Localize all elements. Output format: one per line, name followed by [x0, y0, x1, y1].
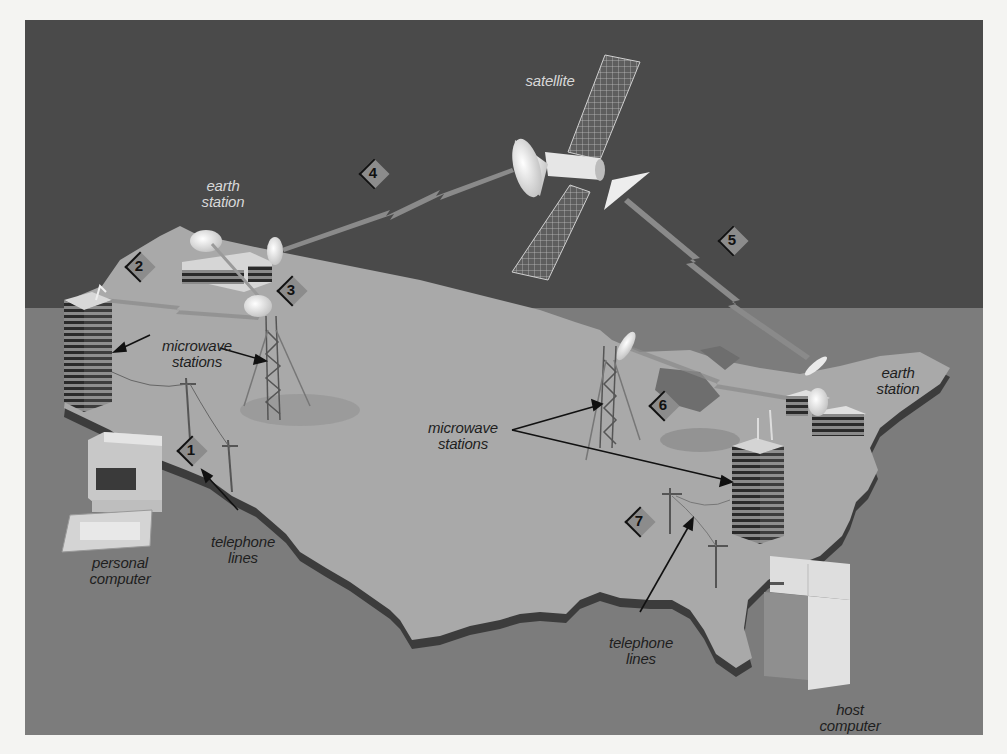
step-marker-4: 4 [359, 159, 387, 187]
label-microwave-stations-east: microwave stations [408, 420, 518, 452]
step-marker-7: 7 [625, 507, 653, 535]
label-host-computer: host computer [800, 702, 900, 734]
step-marker-5: 5 [718, 226, 746, 254]
step-marker-6: 6 [649, 391, 677, 419]
step-marker-2: 2 [125, 252, 153, 280]
label-personal-computer: personal computer [70, 555, 170, 587]
label-earth-station-west: earth station [178, 178, 268, 210]
diagram-frame: satellite earth station earth station mi… [25, 20, 983, 735]
label-microwave-stations-west: microwave stations [147, 338, 247, 370]
network-scene [25, 20, 983, 735]
host-computer-graphic [764, 556, 850, 690]
label-telephone-lines-west: telephone lines [193, 534, 293, 566]
step-marker-1: 1 [177, 436, 205, 464]
step-marker-3: 3 [277, 276, 305, 304]
label-satellite: satellite [505, 73, 595, 89]
label-earth-station-east: earth station [853, 365, 943, 397]
label-telephone-lines-east: telephone lines [591, 635, 691, 667]
